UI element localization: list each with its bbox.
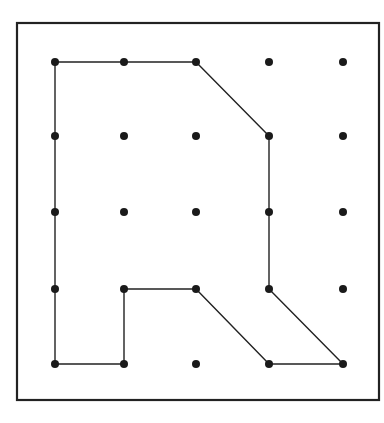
peg-dot (51, 360, 59, 368)
peg-dot (51, 208, 59, 216)
peg-dot (192, 360, 200, 368)
peg-dot (265, 58, 273, 66)
peg-dot (120, 58, 128, 66)
peg-dot (339, 132, 347, 140)
peg-dot (192, 132, 200, 140)
peg-dot (51, 285, 59, 293)
peg-dot (192, 58, 200, 66)
peg-dot (120, 208, 128, 216)
peg-dot (265, 285, 273, 293)
peg-dot (120, 360, 128, 368)
peg-dot (51, 132, 59, 140)
peg-dot (192, 208, 200, 216)
peg-dot (265, 360, 273, 368)
peg-dot (339, 58, 347, 66)
peg-dot (51, 58, 59, 66)
peg-dot (265, 132, 273, 140)
peg-dot (120, 132, 128, 140)
peg-dot (339, 360, 347, 368)
geoboard-diagram (0, 0, 384, 423)
peg-dot (339, 208, 347, 216)
peg-dot (339, 285, 347, 293)
peg-grid (51, 58, 347, 368)
peg-dot (192, 285, 200, 293)
peg-dot (265, 208, 273, 216)
peg-dot (120, 285, 128, 293)
